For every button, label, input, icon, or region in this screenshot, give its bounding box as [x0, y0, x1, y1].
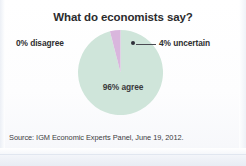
label-uncertain: 4% uncertain [159, 38, 210, 48]
page-edge-bottom [0, 148, 246, 166]
pie-chart-figure: What do economists say? 0% disagree 4% u… [0, 0, 246, 166]
source-note: Source: IGM Economic Experts Panel, June… [9, 133, 184, 142]
leader-line [136, 44, 156, 45]
page-edge-rule [0, 154, 246, 155]
leader-dot-icon [131, 41, 135, 45]
chart-title: What do economists say? [0, 11, 246, 23]
label-agree: 96% agree [0, 82, 246, 92]
label-disagree: 0% disagree [16, 38, 64, 48]
